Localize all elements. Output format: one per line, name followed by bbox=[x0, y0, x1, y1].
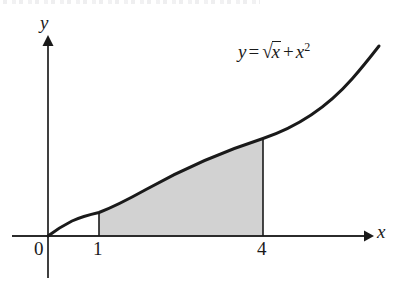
equation-equals-sign: = bbox=[246, 41, 261, 62]
y-axis-arrowhead bbox=[43, 35, 54, 46]
tick-label-0: 0 bbox=[34, 238, 44, 260]
equation-exponent: 2 bbox=[304, 40, 310, 54]
curve-equation-label: y=√x+x2 bbox=[238, 41, 310, 63]
shaded-area-region bbox=[99, 139, 263, 237]
tick-label-1: 1 bbox=[93, 238, 103, 260]
figure-area-under-curve: y x 0 1 4 y=√x+x2 bbox=[0, 0, 402, 286]
y-axis-label: y bbox=[40, 12, 48, 34]
tick-label-4: 4 bbox=[257, 238, 267, 260]
radical-sign-icon: √ bbox=[262, 40, 272, 63]
equation-x-base: x bbox=[296, 41, 304, 62]
x-axis-arrowhead bbox=[364, 231, 374, 242]
x-axis-label: x bbox=[377, 221, 385, 243]
square-root-term: √x bbox=[261, 41, 281, 63]
plot-canvas bbox=[0, 0, 402, 286]
radicand: x bbox=[272, 41, 281, 62]
equation-plus-sign: + bbox=[281, 41, 296, 62]
